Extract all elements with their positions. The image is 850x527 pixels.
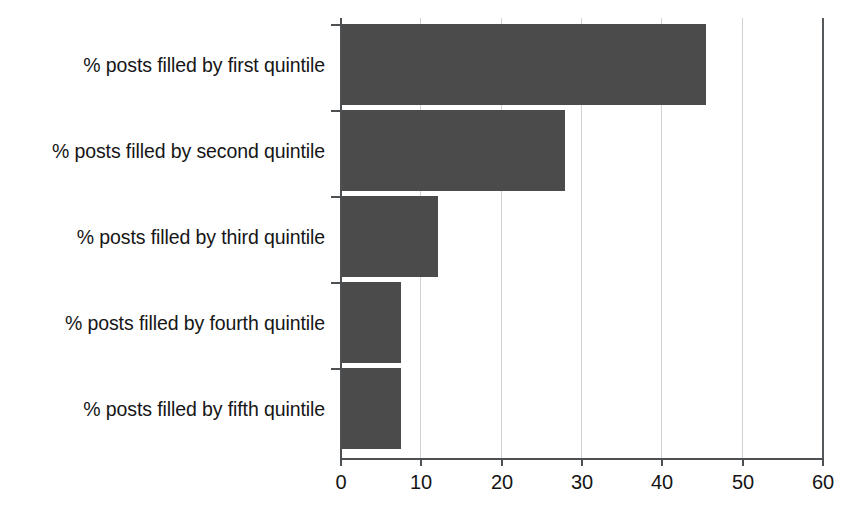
y-tick-4: [331, 368, 341, 370]
x-tick-mark-0: [340, 458, 342, 466]
category-label-fourth-quintile: % posts filled by fourth quintile: [65, 314, 325, 334]
x-tick-mark-20: [501, 458, 503, 466]
gridline-60: [822, 18, 824, 458]
x-tick-mark-30: [581, 458, 583, 466]
x-tick-label-0: 0: [335, 472, 346, 492]
x-tick-label-50: 50: [732, 472, 754, 492]
x-tick-mark-10: [420, 458, 422, 466]
x-tick-mark-40: [661, 458, 663, 466]
bar-fifth-quintile[interactable]: [340, 368, 401, 449]
x-tick-label-60: 60: [812, 472, 834, 492]
y-tick-0: [331, 24, 341, 26]
category-label-first-quintile: % posts filled by first quintile: [83, 56, 325, 76]
bar-fourth-quintile[interactable]: [340, 282, 401, 363]
x-tick-label-30: 30: [571, 472, 593, 492]
bar-second-quintile[interactable]: [340, 110, 565, 191]
category-label-second-quintile: % posts filled by second quintile: [52, 142, 325, 162]
x-tick-mark-50: [742, 458, 744, 466]
gridline-50: [742, 18, 743, 458]
x-tick-mark-60: [822, 458, 824, 466]
x-tick-label-20: 20: [491, 472, 513, 492]
bar-chart: % posts filled by first quintile % posts…: [0, 0, 850, 527]
bar-first-quintile[interactable]: [340, 24, 706, 105]
y-tick-2: [331, 196, 341, 198]
x-tick-label-10: 10: [410, 472, 432, 492]
y-tick-1: [331, 110, 341, 112]
y-axis-line: [340, 18, 342, 458]
category-label-third-quintile: % posts filled by third quintile: [77, 228, 325, 248]
category-label-fifth-quintile: % posts filled by fifth quintile: [83, 400, 325, 420]
bar-third-quintile[interactable]: [340, 196, 438, 277]
y-tick-3: [331, 282, 341, 284]
x-tick-label-40: 40: [651, 472, 673, 492]
plot-area: [340, 18, 822, 458]
